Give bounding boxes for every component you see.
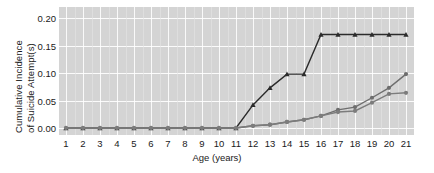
data-point-marker bbox=[166, 126, 170, 130]
x-tick-label: 7 bbox=[165, 138, 170, 149]
chart-figure: Cumulative Incidence of Suicide Attempt(… bbox=[0, 0, 434, 173]
x-tick-label: 13 bbox=[265, 138, 276, 149]
series-gray-circle-lower bbox=[64, 91, 408, 130]
plot-series-layer bbox=[59, 7, 414, 135]
x-tick-label: 2 bbox=[80, 138, 85, 149]
x-tick-label: 10 bbox=[214, 138, 225, 149]
data-point-marker bbox=[217, 126, 221, 130]
data-point-marker bbox=[319, 114, 323, 118]
plot-panel bbox=[59, 7, 414, 135]
series-dark-triangle bbox=[63, 32, 408, 130]
data-point-marker bbox=[183, 126, 187, 130]
x-tick-label: 20 bbox=[384, 138, 395, 149]
data-point-marker bbox=[132, 126, 136, 130]
x-tick-label: 4 bbox=[114, 138, 119, 149]
y-tick-label: 0.10 bbox=[28, 68, 56, 79]
data-point-marker bbox=[302, 118, 306, 122]
x-tick-label: 18 bbox=[350, 138, 361, 149]
series-line bbox=[66, 35, 406, 129]
x-tick-label: 1 bbox=[63, 138, 68, 149]
x-tick-label: 12 bbox=[248, 138, 259, 149]
y-tick-label: 0.15 bbox=[28, 40, 56, 51]
data-point-marker bbox=[387, 86, 391, 90]
data-point-marker bbox=[200, 126, 204, 130]
x-tick-label: 15 bbox=[299, 138, 310, 149]
y-tick-label: 0.20 bbox=[28, 13, 56, 24]
x-tick-label: 16 bbox=[316, 138, 327, 149]
data-point-marker bbox=[64, 126, 68, 130]
data-point-marker bbox=[268, 123, 272, 127]
data-point-marker bbox=[81, 126, 85, 130]
data-point-marker bbox=[234, 126, 238, 130]
x-tick-label: 9 bbox=[199, 138, 204, 149]
x-tick-label: 19 bbox=[367, 138, 378, 149]
data-point-marker bbox=[353, 109, 357, 113]
x-tick-label: 6 bbox=[148, 138, 153, 149]
data-point-marker bbox=[251, 124, 255, 128]
series-gray-circle-upper bbox=[64, 72, 408, 130]
x-axis-tick-labels: 123456789101112131415161718192021 bbox=[0, 138, 434, 152]
y-tick-label: 0.05 bbox=[28, 95, 56, 106]
x-tick-label: 21 bbox=[401, 138, 412, 149]
data-point-marker bbox=[149, 126, 153, 130]
data-point-marker bbox=[370, 101, 374, 105]
data-point-marker bbox=[404, 91, 408, 95]
x-tick-label: 5 bbox=[131, 138, 136, 149]
data-point-marker bbox=[353, 105, 357, 109]
x-tick-label: 14 bbox=[282, 138, 293, 149]
y-tick-label: 0.00 bbox=[28, 123, 56, 134]
x-tick-label: 3 bbox=[97, 138, 102, 149]
data-point-marker bbox=[370, 96, 374, 100]
data-point-marker bbox=[98, 126, 102, 130]
x-tick-label: 8 bbox=[182, 138, 187, 149]
y-axis-title-line1: Cumulative Incidence bbox=[13, 40, 24, 133]
x-tick-label: 11 bbox=[231, 138, 241, 149]
x-axis-title: Age (years) bbox=[0, 152, 434, 163]
x-tick-label: 17 bbox=[333, 138, 344, 149]
data-point-marker bbox=[115, 126, 119, 130]
data-point-marker bbox=[285, 120, 289, 124]
series-line bbox=[66, 74, 406, 128]
data-point-marker bbox=[336, 110, 340, 114]
data-point-marker bbox=[387, 92, 391, 96]
data-point-marker bbox=[404, 72, 408, 76]
